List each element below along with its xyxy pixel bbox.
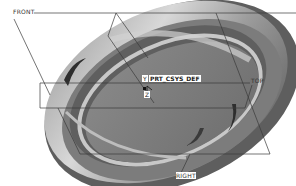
csys-axis-y-tag: Y xyxy=(142,75,148,82)
csys-axis-z-tag: Z xyxy=(144,91,150,98)
graphics-viewport[interactable]: FRONT TOP RIGHT Y PRT_CSYS_DEF Z xyxy=(0,0,296,186)
csys-label[interactable]: PRT_CSYS_DEF xyxy=(149,75,201,82)
datum-label-right[interactable]: RIGHT xyxy=(176,172,196,179)
disk-model[interactable] xyxy=(14,0,296,186)
datum-label-front[interactable]: FRONT xyxy=(13,8,35,15)
datum-label-top[interactable]: TOP xyxy=(251,77,264,84)
